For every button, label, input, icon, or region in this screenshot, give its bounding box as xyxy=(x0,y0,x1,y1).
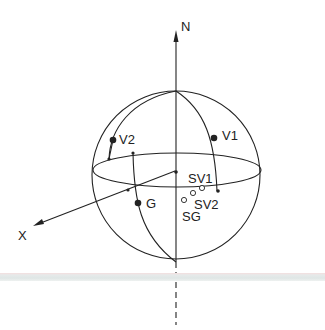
point-v1 xyxy=(211,135,218,142)
point-sg xyxy=(181,197,186,202)
equator-node-right xyxy=(216,189,220,193)
point-sv2 xyxy=(190,190,195,195)
equator-node-x xyxy=(126,188,129,191)
point-g xyxy=(135,200,142,207)
equator xyxy=(93,153,261,187)
point-sv1 xyxy=(199,185,204,190)
meridian-v2 xyxy=(109,91,176,159)
label-v2: V2 xyxy=(119,133,135,146)
label-sv1: SV1 xyxy=(188,172,213,185)
label-g: G xyxy=(146,197,156,210)
point-v2 xyxy=(110,137,117,144)
label-v1: V1 xyxy=(222,129,238,142)
label-north: N xyxy=(181,20,190,33)
x-arrow-icon xyxy=(33,219,44,226)
north-arrow-icon xyxy=(174,30,179,42)
equator-node-left xyxy=(107,157,110,160)
label-sg: SG xyxy=(182,210,201,223)
center-dot xyxy=(174,170,178,174)
separator-band xyxy=(0,273,325,281)
label-x: X xyxy=(18,229,27,242)
equator-node-top xyxy=(131,151,134,154)
